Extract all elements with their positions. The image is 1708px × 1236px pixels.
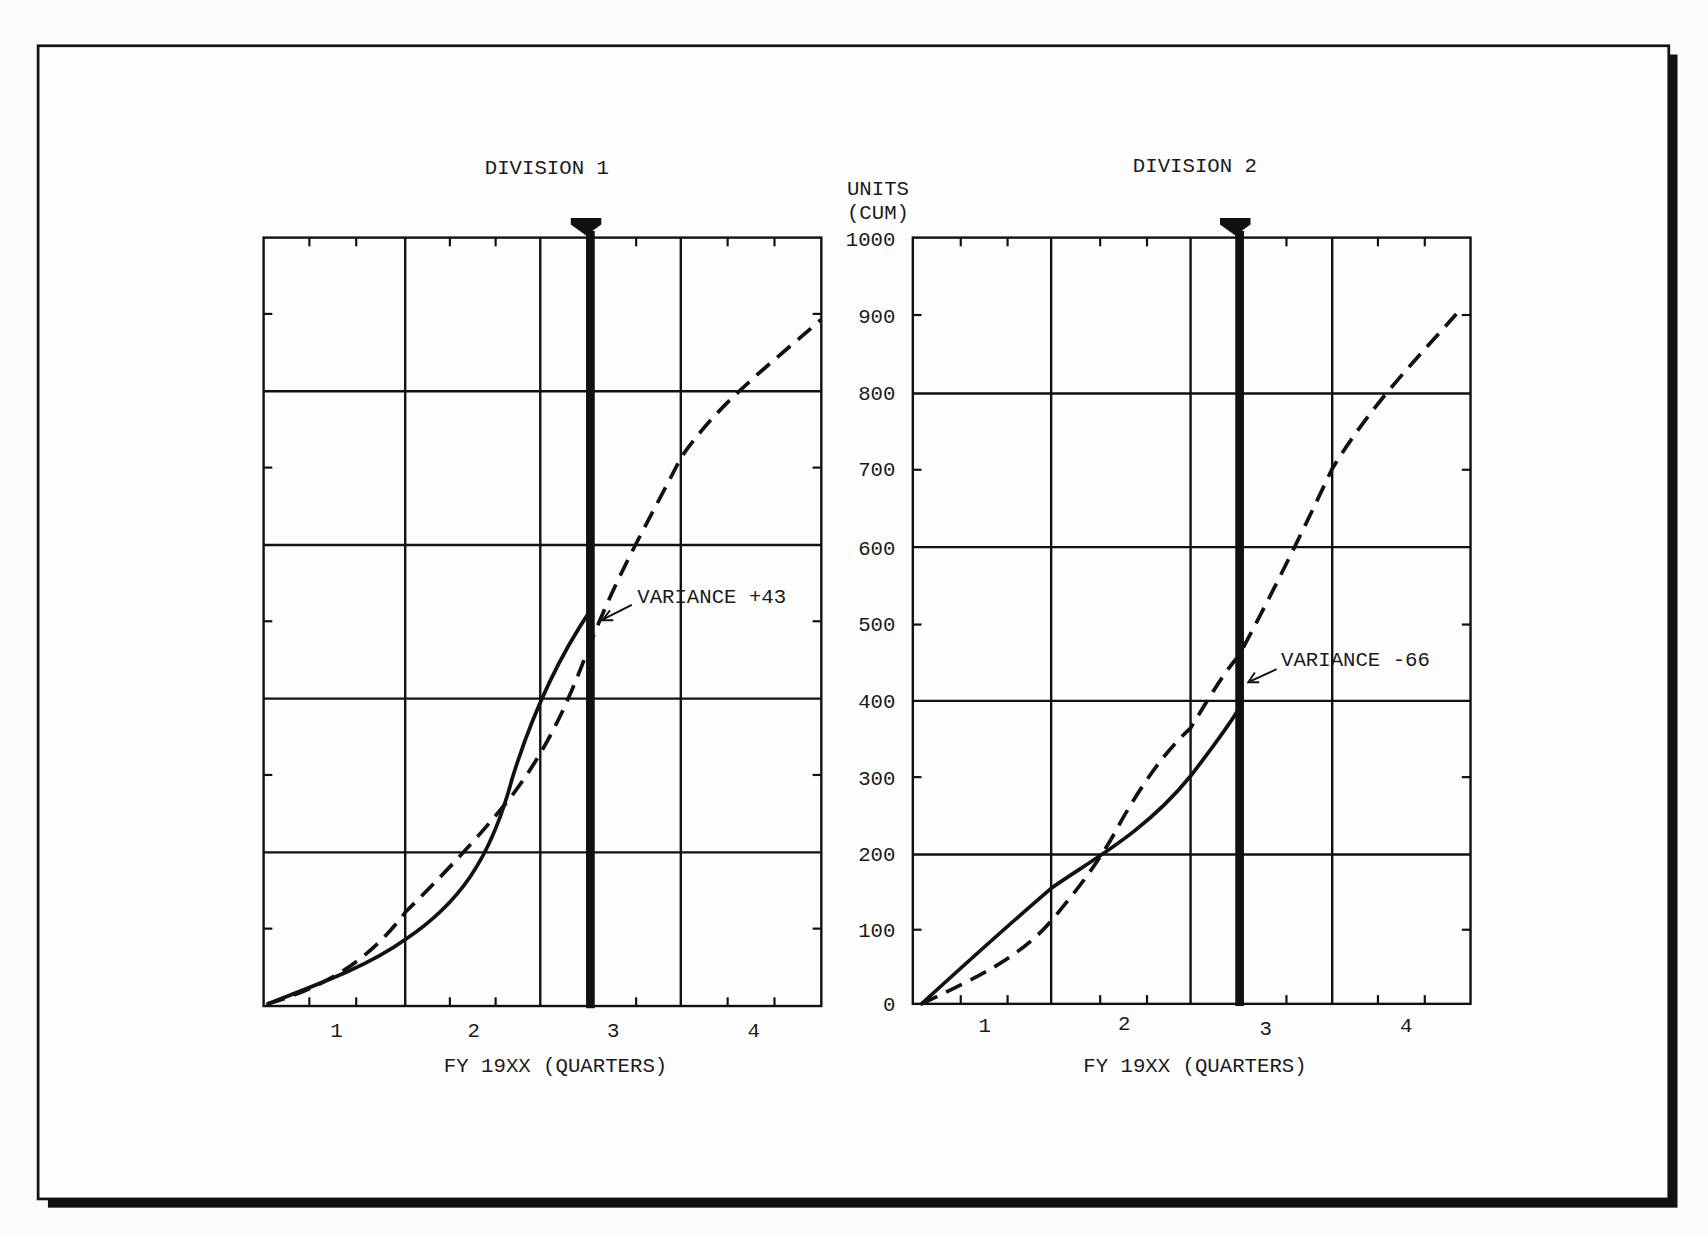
y-axis-label-units: UNITS	[847, 178, 909, 201]
x-tick-3-right: 3	[1260, 1018, 1272, 1041]
y-tick-1000: 1000	[846, 229, 896, 252]
y-axis-label-cum: (CUM)	[847, 202, 909, 225]
y-tick-200: 200	[858, 844, 895, 867]
y-tick-500: 500	[858, 614, 895, 637]
x-tick-1-right: 1	[979, 1015, 991, 1038]
y-tick-900: 900	[858, 306, 895, 329]
x-tick-3: 3	[607, 1020, 619, 1043]
division-2-title: DIVISION 2	[1133, 155, 1257, 178]
y-tick-700: 700	[858, 459, 895, 482]
division-1-variance-label: VARIANCE +43	[637, 586, 786, 609]
x-tick-4-right: 4	[1400, 1015, 1412, 1038]
figure-page: DIVISION 1	[0, 0, 1708, 1236]
y-tick-800: 800	[858, 383, 895, 406]
division-1-title: DIVISION 1	[485, 157, 609, 180]
x-tick-2-right: 2	[1118, 1013, 1130, 1036]
y-tick-400: 400	[858, 691, 895, 714]
x-tick-1: 1	[330, 1020, 342, 1043]
chart-figure: DIVISION 1	[0, 0, 1708, 1236]
y-tick-100: 100	[858, 920, 895, 943]
x-tick-2: 2	[468, 1020, 480, 1043]
x-tick-4: 4	[748, 1020, 760, 1043]
y-tick-600: 600	[858, 538, 895, 561]
division-1-x-axis-label: FY 19XX (QUARTERS)	[444, 1056, 667, 1079]
division-2-variance-label: VARIANCE -66	[1281, 649, 1430, 672]
y-tick-300: 300	[858, 768, 895, 791]
y-tick-0: 0	[883, 994, 895, 1017]
division-2-x-axis-label: FY 19XX (QUARTERS)	[1083, 1056, 1306, 1079]
